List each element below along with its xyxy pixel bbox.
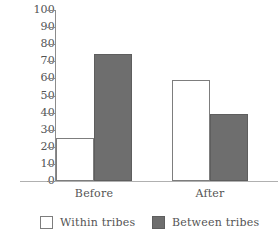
bar-before-within-tribes	[56, 138, 94, 181]
bar-after-within-tribes	[172, 80, 210, 181]
x-axis-label-before: Before	[54, 187, 134, 200]
legend-label-between-tribes: Between tribes	[172, 216, 259, 229]
y-tick-mark	[47, 44, 55, 45]
y-tick-mark	[47, 96, 55, 97]
x-axis-baseline	[20, 181, 278, 182]
y-tick-mark	[47, 181, 55, 182]
y-tick-mark	[47, 78, 55, 79]
plot-area	[56, 10, 268, 181]
legend-item-between-tribes: Between tribes	[152, 212, 259, 232]
legend-swatch-between-tribes	[152, 216, 165, 229]
legend-label-within-tribes: Within tribes	[60, 216, 135, 229]
y-tick-mark	[47, 164, 55, 165]
y-tick-mark	[47, 61, 55, 62]
y-tick-mark	[47, 10, 55, 11]
chart-legend: Within tribes Between tribes	[0, 212, 280, 240]
x-axis-label-after: After	[170, 187, 250, 200]
y-tick-mark	[47, 113, 55, 114]
bar-chart: 1009080706050403020100 BeforeAfter Withi…	[0, 0, 280, 240]
bar-after-between-tribes	[210, 114, 248, 181]
legend-item-within-tribes: Within tribes	[40, 212, 135, 232]
y-tick-mark	[47, 27, 55, 28]
y-tick-mark	[47, 130, 55, 131]
bar-before-between-tribes	[94, 54, 132, 181]
legend-swatch-within-tribes	[40, 216, 53, 229]
y-tick-mark	[47, 147, 55, 148]
